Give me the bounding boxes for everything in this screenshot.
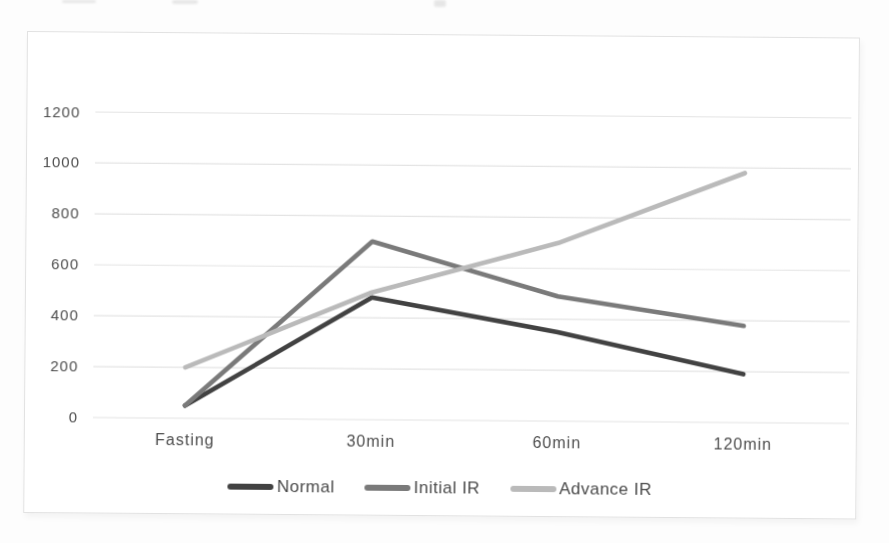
y-tick-label: 0 [69, 408, 78, 425]
chart-plot-area: 020040060080010001200Fasting30min60min12… [24, 32, 859, 519]
x-category-label: 30min [346, 433, 395, 450]
y-tick-label: 200 [50, 357, 78, 374]
y-tick-label: 600 [51, 255, 79, 272]
y-tick-label: 800 [51, 205, 79, 222]
y-tick-label: 1000 [43, 154, 81, 171]
line-chart: 020040060080010001200Fasting30min60min12… [23, 31, 860, 520]
legend-item-initial-ir: Initial IR [365, 478, 481, 499]
legend-label: Initial IR [414, 478, 481, 499]
legend-item-advance-ir: Advance IR [510, 479, 652, 500]
gridline [95, 112, 851, 118]
scan-artifact [62, 0, 96, 3]
legend-item-normal: Normal [228, 477, 335, 498]
x-category-label: 60min [532, 434, 581, 451]
scan-artifact [434, 0, 446, 7]
legend-swatch-icon [365, 485, 411, 491]
gridline [95, 214, 851, 220]
legend-swatch-icon [228, 484, 274, 490]
x-category-label: 120min [713, 435, 772, 452]
scan-artifact [172, 0, 198, 4]
y-tick-label: 400 [51, 306, 79, 323]
gridline [93, 418, 849, 424]
y-tick-label: 1200 [43, 103, 81, 120]
gridline [95, 163, 851, 169]
x-category-label: Fasting [155, 431, 215, 448]
legend-label: Normal [277, 477, 335, 497]
legend-swatch-icon [510, 486, 556, 492]
legend-label: Advance IR [559, 479, 652, 500]
scanned-page: 020040060080010001200Fasting30min60min12… [0, 0, 889, 543]
